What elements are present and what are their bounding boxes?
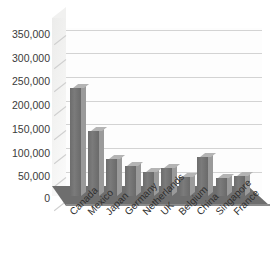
y-axis-label: 100,000 xyxy=(0,148,50,159)
chart-floor-edge xyxy=(66,204,270,206)
bar-front-face xyxy=(106,159,117,196)
bar-mexico[interactable] xyxy=(88,131,99,196)
y-axis-label: 300,000 xyxy=(0,53,50,64)
y-axis-label: 0 xyxy=(0,193,50,204)
bar-side-face xyxy=(117,155,122,196)
gridline xyxy=(66,101,262,102)
bar-front-face xyxy=(179,177,190,196)
bar-side-face xyxy=(208,153,213,196)
bar-front-face xyxy=(197,157,208,196)
bar-japan[interactable] xyxy=(106,159,117,196)
y-axis-label: 150,000 xyxy=(0,124,50,135)
bar-canada[interactable] xyxy=(70,88,81,196)
gridline xyxy=(66,77,262,78)
bar-china[interactable] xyxy=(197,157,208,196)
bar-side-face xyxy=(99,127,104,196)
bar-front-face xyxy=(234,176,245,196)
bar-front-face xyxy=(70,88,81,196)
plot-area: 050,000100,000150,000200,000250,000300,0… xyxy=(0,0,278,269)
bar-side-face xyxy=(154,168,159,196)
gridline xyxy=(66,53,262,54)
bar-side-face xyxy=(172,164,177,196)
gridline xyxy=(66,124,262,125)
gridline xyxy=(66,30,262,31)
y-axis-label: 250,000 xyxy=(0,76,50,87)
bar-front-face xyxy=(216,178,227,196)
y-axis-label: 50,000 xyxy=(0,171,50,182)
y-axis-label: 200,000 xyxy=(0,100,50,111)
bar-front-face xyxy=(125,166,136,196)
bar-germany[interactable] xyxy=(125,166,136,196)
bar-singapore[interactable] xyxy=(216,178,227,196)
bar-side-face xyxy=(136,162,141,196)
bar-uk[interactable] xyxy=(161,168,172,196)
chart-container: 050,000100,000150,000200,000250,000300,0… xyxy=(0,0,278,269)
bar-netherlands[interactable] xyxy=(143,172,154,196)
bar-front-face xyxy=(161,168,172,196)
bar-front-face xyxy=(88,131,99,196)
bar-side-face xyxy=(81,84,86,196)
y-axis-label: 350,000 xyxy=(0,29,50,40)
bar-france[interactable] xyxy=(234,176,245,196)
bar-belgium[interactable] xyxy=(179,177,190,196)
bar-front-face xyxy=(143,172,154,196)
